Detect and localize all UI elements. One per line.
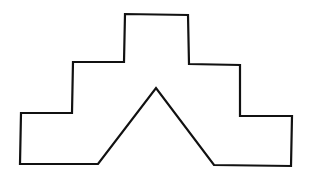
diagram-canvas [0, 0, 310, 185]
stepped-notched-polygon [20, 14, 292, 166]
